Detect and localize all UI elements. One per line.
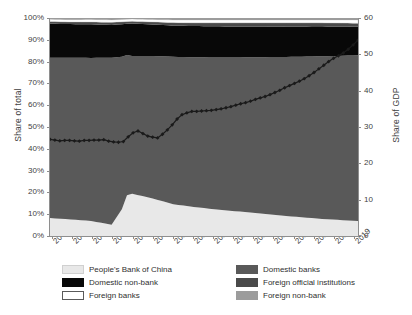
legend-column: People's Bank of ChinaDomestic non-bankF… (62, 264, 172, 303)
y-axis-left-tick-label: 20% (12, 188, 44, 196)
area-band (50, 23, 358, 57)
legend-swatch (236, 291, 258, 300)
plot-area (50, 18, 358, 236)
y-axis-right-tick-label: 60 (364, 14, 373, 22)
legend-swatch (236, 278, 258, 287)
legend-item-label: People's Bank of China (89, 266, 172, 274)
legend-item[interactable]: People's Bank of China (62, 264, 172, 276)
y-axis-right-title: Share of GDP (391, 75, 401, 155)
legend-swatch (62, 265, 84, 274)
legend-swatch (62, 278, 84, 287)
y-axis-left-tick-label: 80% (12, 58, 44, 66)
x-axis-line (49, 236, 359, 237)
y-axis-left-tick-label: 0% (12, 232, 44, 240)
legend-swatch (62, 291, 84, 300)
y-axis-left-tick-label: 30% (12, 167, 44, 175)
y-axis-left-tick-label: 90% (12, 36, 44, 44)
legend-column: Domestic banksForeign official instituti… (236, 264, 355, 303)
legend-swatch (236, 265, 258, 274)
y-axis-left-tick-label: 100% (12, 14, 44, 22)
y-axis-right-tick-label: 20 (364, 159, 373, 167)
chart-container: Share of total Share of GDP 0%10%20%30%4… (0, 0, 412, 315)
legend-item-label: Foreign non-bank (263, 292, 326, 300)
y-axis-right-tick-label: 50 (364, 50, 373, 58)
y-axis-right-tick-label: 40 (364, 87, 373, 95)
legend-item-label: Foreign official institutions (263, 279, 355, 287)
legend-item[interactable]: Domestic banks (236, 264, 355, 276)
y-axis-left-tick-label: 10% (12, 210, 44, 218)
legend-item[interactable]: Foreign non-bank (236, 290, 355, 302)
y-axis-right-tick-label: 10 (364, 196, 373, 204)
y-axis-left-tick-label: 60% (12, 101, 44, 109)
legend-item-label: Domestic non-bank (89, 279, 158, 287)
chart-legend: People's Bank of ChinaDomestic non-bankF… (62, 264, 392, 304)
y-axis-left-tick-label: 70% (12, 79, 44, 87)
y-axis-left-line (49, 18, 50, 236)
y-axis-right-line (358, 18, 359, 236)
legend-item[interactable]: Domestic non-bank (62, 277, 172, 289)
y-axis-right-tick-label: 30 (364, 123, 373, 131)
y-axis-left-tick-label: 50% (12, 123, 44, 131)
stacked-area-svg (50, 18, 358, 236)
legend-item[interactable]: Foreign banks (62, 290, 172, 302)
legend-item-label: Domestic banks (263, 266, 320, 274)
legend-item-label: Foreign banks (89, 292, 140, 300)
legend-item[interactable]: Foreign official institutions (236, 277, 355, 289)
y-axis-left-tick-label: 40% (12, 145, 44, 153)
